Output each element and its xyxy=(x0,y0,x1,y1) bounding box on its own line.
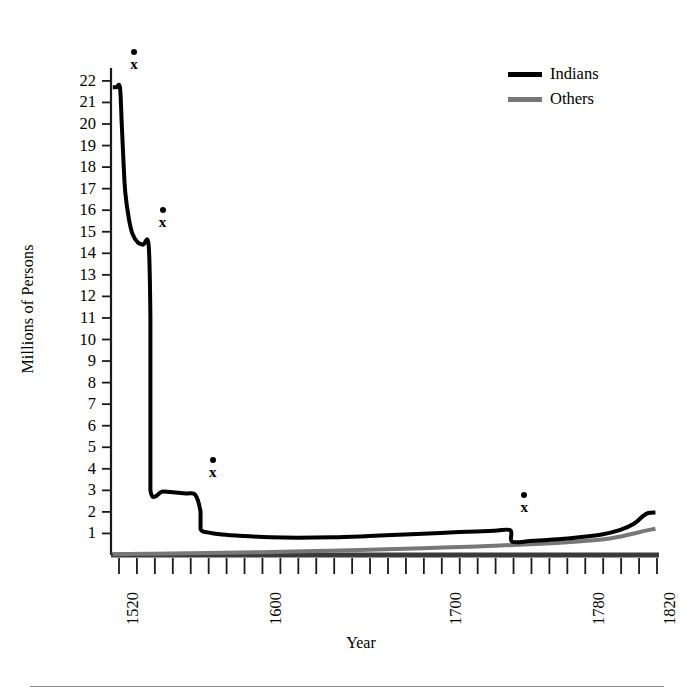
legend-item-others: Others xyxy=(508,87,599,112)
marker-dot-icon xyxy=(160,207,166,213)
data-series xyxy=(113,85,656,555)
marker-x-label: x xyxy=(514,500,534,515)
event-marker: x xyxy=(203,457,223,480)
event-marker: x xyxy=(514,492,534,515)
event-marker: x xyxy=(153,207,173,230)
legend-swatch-others xyxy=(508,97,542,102)
chart-figure: Millions of Persons 12345678910111213141… xyxy=(0,0,694,700)
marker-x-label: x xyxy=(203,465,223,480)
footer-divider xyxy=(30,686,664,687)
legend-swatch-indians xyxy=(508,72,542,77)
marker-x-label: x xyxy=(153,215,173,230)
x-axis-title: Year xyxy=(0,634,694,652)
marker-x-label: x xyxy=(124,57,144,72)
chart-legend: Indians Others xyxy=(508,62,599,112)
y-axis-ticks xyxy=(102,81,111,534)
marker-dot-icon xyxy=(131,49,137,55)
x-axis-ticks xyxy=(119,558,657,574)
event-marker: x xyxy=(124,49,144,72)
x-axis-title-text: Year xyxy=(346,634,375,651)
legend-label-indians: Indians xyxy=(550,66,599,83)
marker-dot-icon xyxy=(210,457,216,463)
marker-dot-icon xyxy=(521,492,527,498)
legend-item-indians: Indians xyxy=(508,62,599,87)
legend-label-others: Others xyxy=(550,91,594,108)
axis-lines xyxy=(111,68,659,555)
